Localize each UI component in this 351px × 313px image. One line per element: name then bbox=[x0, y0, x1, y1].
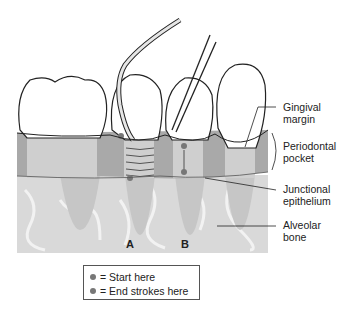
label-junctional-epithelium: Junctional epithelium bbox=[283, 183, 331, 207]
label-gingival-margin: Gingival margin bbox=[283, 101, 321, 125]
legend-box: = Start here = End strokes here bbox=[83, 265, 200, 300]
legend-item-end: = End strokes here bbox=[90, 285, 188, 297]
right-tooth-crown bbox=[217, 64, 266, 148]
periodontal-instrumentation-diagram: Gingival margin Periodontal pocket Junct… bbox=[0, 0, 351, 313]
molar-crown bbox=[19, 76, 107, 138]
dot-icon bbox=[90, 274, 96, 280]
legend-item-start: = Start here bbox=[90, 271, 155, 283]
label-periodontal-pocket: Periodontal pocket bbox=[283, 140, 336, 164]
label-alveolar-bone: Alveolar bone bbox=[283, 219, 321, 243]
dot-icon bbox=[90, 288, 96, 294]
panel-letter-b: B bbox=[181, 238, 189, 250]
panel-letter-a: A bbox=[126, 238, 134, 250]
